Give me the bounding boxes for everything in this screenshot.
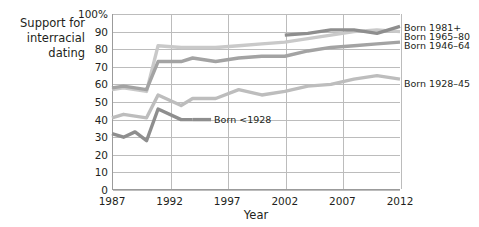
series-line (112, 76, 400, 118)
series-line (112, 42, 400, 90)
chart-container: Support for interracial dating 010203040… (0, 0, 479, 227)
series-line (112, 30, 400, 92)
series-label-born-lt-1928: Born <1928 (214, 114, 271, 125)
series-label-born-1928-45: Born 1928–45 (404, 79, 470, 89)
series-label-born-1946-64: Born 1946–64 (404, 41, 470, 51)
